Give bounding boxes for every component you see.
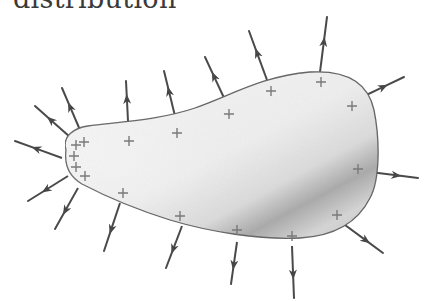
field-arrow: [126, 81, 128, 121]
field-arrow: [231, 242, 237, 284]
field-arrow: [104, 203, 120, 251]
charge-distribution-diagram: [0, 0, 428, 301]
field-arrow: [15, 141, 62, 158]
field-arrow: [55, 188, 78, 229]
field-arrow: [62, 88, 80, 130]
field-arrow: [164, 71, 175, 116]
field-arrow: [345, 225, 383, 253]
field-arrow: [320, 17, 327, 72]
field-arrow: [292, 246, 294, 298]
field-arrow: [35, 106, 70, 137]
field-arrow: [205, 57, 225, 100]
field-arrow: [166, 226, 182, 268]
field-arrow: [28, 176, 68, 201]
field-arrow: [249, 31, 267, 80]
conductor-highlight: [65, 72, 378, 239]
